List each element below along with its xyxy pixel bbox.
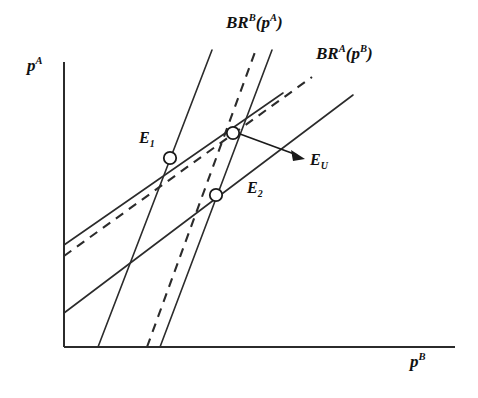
br-a-solid-upper <box>64 93 283 245</box>
br-a-solid-lower <box>64 95 353 313</box>
br-a-dashed <box>64 77 312 256</box>
e1-base: E <box>139 129 150 146</box>
br-a-close-paren: ) <box>367 44 373 63</box>
br-b-dashed <box>147 52 255 347</box>
marker-intersection-upper <box>227 127 239 139</box>
e2-sub: 2 <box>258 188 263 199</box>
eu-arrow-head <box>291 150 305 161</box>
point-label-e2: E2 <box>247 180 263 196</box>
br-a-base: BR <box>316 44 339 63</box>
br-b-base: BR <box>226 13 249 32</box>
x-axis-label-base: p <box>410 352 419 371</box>
x-axis-label-sup: B <box>419 351 426 362</box>
e2-base: E <box>247 179 258 196</box>
x-axis-label: pB <box>410 353 426 370</box>
y-axis-label-base: p <box>27 56 36 75</box>
point-label-e1: E1 <box>139 130 155 146</box>
br-b-family <box>98 50 272 347</box>
br-b-arg-base: p <box>261 13 270 32</box>
e1-sub: 1 <box>150 138 155 149</box>
curve-label-br-b: BRB(pA) <box>226 14 283 31</box>
br-a-family <box>64 77 353 313</box>
marker-e1 <box>164 152 176 164</box>
point-label-eu: EU <box>310 152 328 168</box>
marker-e2 <box>210 189 222 201</box>
br-a-sup: A <box>339 43 346 54</box>
diagram-canvas <box>0 0 478 398</box>
br-b-solid-left <box>98 50 212 347</box>
y-axis-label-sup: A <box>36 55 43 66</box>
curve-label-br-a: BRA(pB) <box>316 45 373 62</box>
diagram-figure: BRB(pA) BRA(pB) pA pB E1 E2 EU <box>0 0 478 398</box>
y-axis-label: pA <box>27 57 43 74</box>
eu-base: E <box>310 151 321 168</box>
br-a-arg-base: p <box>351 44 360 63</box>
br-b-arg-sup: A <box>270 12 277 23</box>
br-a-arg-sup: B <box>360 43 367 54</box>
br-b-close-paren: ) <box>277 13 283 32</box>
eu-sub: U <box>321 160 328 171</box>
br-b-sup: B <box>249 12 256 23</box>
